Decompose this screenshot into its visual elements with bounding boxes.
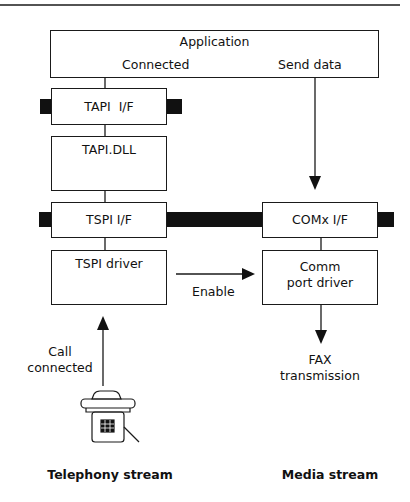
tspi-driver-label: TSPI driver xyxy=(51,256,167,271)
enable-label: Enable xyxy=(192,284,235,299)
tapi-if-label: TAPI I/F xyxy=(51,99,167,114)
arrow-up-call xyxy=(97,316,109,330)
send-data-label: Send data xyxy=(278,57,342,72)
arrow-right-enable xyxy=(242,268,255,280)
media-stream-caption: Media stream xyxy=(275,467,385,482)
comm-port-line2: port driver xyxy=(262,275,378,290)
fax-label-line2: transmission xyxy=(270,368,370,383)
arrow-down-fax xyxy=(315,330,327,344)
fax-label-line1: FAX xyxy=(270,352,370,367)
telephony-stream-caption: Telephony stream xyxy=(45,467,175,482)
call-label-line2: connected xyxy=(20,360,100,375)
tapi-if-right-tab xyxy=(166,99,182,114)
comx-if-label: COMx I/F xyxy=(262,212,378,227)
arrow-down-comx xyxy=(309,176,321,190)
call-label-line1: Call xyxy=(20,344,100,359)
comm-port-line1: Comm xyxy=(262,259,378,274)
tspi-if-label: TSPI I/F xyxy=(51,212,167,227)
telephone-icon xyxy=(81,391,139,442)
connected-label: Connected xyxy=(122,57,189,72)
application-title: Application xyxy=(50,34,379,49)
tapi-dll-label: TAPI.DLL xyxy=(51,142,167,157)
